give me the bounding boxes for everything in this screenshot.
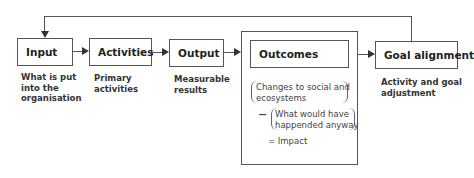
feedback-line-left: [44, 16, 45, 32]
node-outcomes-label: Outcomes: [259, 41, 318, 67]
feedback-line-top: [44, 16, 412, 17]
formula-term1: Changes to social and ecosystems: [256, 82, 350, 103]
node-output-description: Measurable results: [174, 74, 230, 95]
arrow-right-icon: [162, 48, 169, 56]
arrow-right-icon: [368, 50, 375, 58]
node-goal-alignment-description: Activity and goal adjustment: [381, 77, 462, 98]
feedback-line-right: [411, 16, 412, 41]
node-activities: Activities: [89, 38, 152, 66]
node-activities-label: Activities: [98, 39, 153, 65]
node-activities-description: Primary activities: [94, 73, 138, 94]
formula-result: = Impact: [268, 136, 307, 147]
arrow-right-icon: [234, 48, 241, 56]
node-outcomes: Outcomes: [250, 40, 349, 68]
node-output: Output: [169, 39, 224, 67]
arrow-right-icon: [82, 47, 89, 55]
node-output-label: Output: [178, 40, 219, 66]
node-input-label: Input: [26, 39, 57, 65]
feedback-arrow-icon: [41, 31, 49, 38]
formula-minus: −: [258, 110, 267, 121]
node-input-description: What is put into the organisation: [21, 72, 81, 104]
node-goal-alignment: Goal alignment: [375, 41, 458, 69]
node-goal-alignment-label: Goal alignment: [384, 42, 474, 68]
formula-term2: What would have happended anyway: [275, 109, 359, 130]
node-input: Input: [17, 38, 73, 66]
